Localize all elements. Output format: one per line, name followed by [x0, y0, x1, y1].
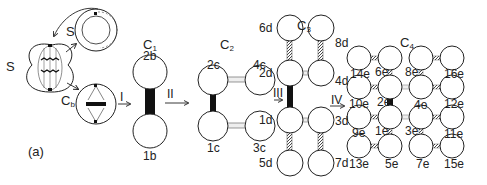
cell-label: 1c: [207, 142, 220, 154]
cell-label: 7e: [416, 158, 429, 170]
cell-label: 4e: [414, 99, 427, 111]
cell-label: 3d: [335, 115, 348, 127]
cell-label: 1e: [375, 125, 388, 137]
cell-label: 9e: [352, 127, 365, 139]
stage-c3: [277, 15, 334, 176]
cell-label: 13e: [349, 158, 369, 170]
cell-label: 4d: [335, 75, 348, 87]
stage-c1: [133, 55, 167, 148]
cb-cell-label: Cb: [61, 94, 75, 109]
cell-label: 8d: [335, 37, 348, 49]
stem-cell-label: S: [6, 60, 15, 73]
cell-label: 8e: [405, 66, 418, 78]
interphase-cell: [75, 9, 117, 51]
cell-label: 5e: [385, 158, 398, 170]
cell-label: 2c: [207, 59, 220, 71]
cell-label: 5d: [259, 157, 272, 169]
stage-c2-title: C2: [220, 38, 234, 53]
cell-label: 2b: [143, 50, 156, 62]
cell-label: 1d: [259, 114, 272, 126]
cell-label: 16e: [444, 68, 464, 80]
arrow-to-cb: [67, 83, 78, 89]
cell-label: 2e: [377, 96, 390, 108]
cell-label: 3e: [405, 125, 418, 137]
stage-c3-title: C3: [297, 19, 311, 34]
cell-label: 15e: [444, 158, 464, 170]
stage-c4-title: C4: [400, 36, 414, 51]
panel-label: (a): [28, 145, 44, 158]
division-label-1: I: [120, 91, 123, 103]
cell-label: 7d: [335, 157, 348, 169]
cell-label: 6e: [375, 66, 388, 78]
cell-label: 1b: [143, 150, 156, 162]
division-label-3: III: [273, 87, 283, 99]
division-label-2: II: [167, 88, 174, 100]
cystoblast-cell: [76, 84, 116, 124]
cell-label: 11e: [444, 128, 463, 140]
division-label-4: IV: [331, 94, 342, 106]
cell-label: 14e: [350, 68, 370, 80]
cell-label: 10e: [349, 98, 369, 110]
cell-label: 3c: [253, 142, 266, 154]
interphase-cell-label: S: [66, 25, 75, 38]
cell-label: 2d: [259, 67, 272, 79]
cell-label: 6d: [259, 22, 272, 34]
cell-label: 12e: [444, 98, 464, 110]
